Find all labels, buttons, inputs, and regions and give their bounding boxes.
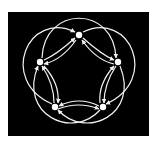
node-top <box>76 32 82 38</box>
inner-edge <box>82 40 114 64</box>
node-bottom-left <box>52 104 58 110</box>
outer-edge <box>83 28 135 104</box>
outer-edge <box>58 66 124 123</box>
node-bottom-right <box>100 104 106 110</box>
outer-edge <box>34 66 100 123</box>
inner-edge <box>58 105 99 109</box>
pentagon-graph <box>0 0 158 146</box>
inner-edge <box>44 40 76 64</box>
node-right <box>115 59 121 65</box>
outer-edge <box>23 28 75 104</box>
node-left <box>37 59 43 65</box>
